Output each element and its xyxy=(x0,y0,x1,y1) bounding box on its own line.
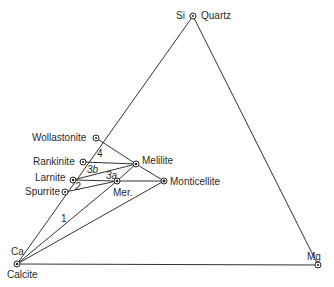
vertex-label-mg: Mg xyxy=(307,251,321,262)
field-label-3b: 3b xyxy=(87,164,98,175)
label-merwinite: Mer. xyxy=(113,187,132,198)
field-label-3a: 3a xyxy=(106,170,117,181)
edge-ca-mg xyxy=(17,264,318,265)
label-wollastonite: Wollastonite xyxy=(32,132,86,143)
edge-si-mg xyxy=(193,16,318,265)
label-melilite: Melilite xyxy=(142,155,173,166)
label-spurrite: Spurrite xyxy=(25,186,60,197)
label-calcite: Calcite xyxy=(7,269,38,280)
field-label-2: 2 xyxy=(75,181,81,192)
vertex-label-si: Si xyxy=(176,10,185,21)
label-quartz: Quartz xyxy=(201,10,231,21)
label-rankinite: Rankinite xyxy=(33,156,75,167)
tie-melilite-monticellite xyxy=(136,164,164,181)
ternary-diagram xyxy=(0,0,334,287)
label-monticellite: Monticellite xyxy=(170,176,220,187)
field-label-4: 4 xyxy=(97,148,103,159)
field-label-1: 1 xyxy=(61,213,67,224)
vertex-label-ca: Ca xyxy=(11,246,24,257)
label-larnite: Larnite xyxy=(35,172,66,183)
